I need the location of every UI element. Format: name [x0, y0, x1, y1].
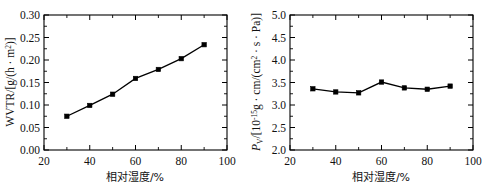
x-tick-label: 20 — [284, 155, 296, 167]
data-point — [65, 114, 69, 118]
y-tick-label: 3.0 — [272, 99, 287, 111]
data-point — [156, 67, 160, 71]
x-tick-label: 100 — [218, 155, 236, 167]
x-tick-label: 20 — [38, 155, 50, 167]
y-axis-title: PV/[10-15g · cm/(cm2 · s · Pa)] — [250, 13, 265, 152]
y-tick-label: 0.30 — [20, 9, 40, 21]
x-tick-label: 80 — [176, 155, 188, 167]
y-tick-label: 0.00 — [20, 144, 40, 156]
data-point — [202, 43, 206, 47]
wvtr-panel: 0.000.050.100.150.200.250.30 20406080100… — [0, 0, 247, 195]
y-tick-label: 0.10 — [20, 99, 40, 111]
data-point — [311, 87, 315, 91]
plot-frame — [44, 15, 227, 150]
data-point — [88, 103, 92, 107]
data-point — [334, 90, 338, 94]
y-tick-label: 3.5 — [272, 77, 287, 89]
x-axis-title: 相对湿度/% — [106, 170, 164, 184]
data-point — [110, 92, 114, 96]
pv-chart-svg: 2.02.53.03.54.04.55.0 20406080100 PV/[10… — [247, 0, 495, 195]
x-tick-label: 40 — [84, 155, 96, 167]
y-tick-label: 4.0 — [272, 54, 287, 66]
y-tick-label: 0.20 — [20, 54, 40, 66]
x-tick-label: 60 — [376, 155, 388, 167]
y-tick-label: 5.0 — [272, 9, 287, 21]
x-tick-label: 40 — [330, 155, 342, 167]
y-tick-label: 0.25 — [20, 32, 40, 44]
x-tick-label: 80 — [422, 155, 434, 167]
y-tick-label: 0.15 — [20, 77, 40, 89]
x-tick-label: 100 — [464, 155, 482, 167]
data-point — [356, 91, 360, 95]
data-point — [448, 84, 452, 88]
y-tick-label: 2.5 — [272, 122, 287, 134]
wvtr-chart-svg: 0.000.050.100.150.200.250.30 20406080100… — [0, 0, 247, 195]
figure-container: 0.000.050.100.150.200.250.30 20406080100… — [0, 0, 495, 195]
data-point — [379, 80, 383, 84]
y-tick-label: 0.05 — [20, 122, 40, 134]
pv-panel: 2.02.53.03.54.04.55.0 20406080100 PV/[10… — [247, 0, 494, 195]
x-tick-label: 60 — [130, 155, 142, 167]
y-axis-title: WVTR/[g/(h · m2)] — [4, 37, 18, 126]
x-axis-title: 相对湿度/% — [352, 170, 410, 184]
data-point — [402, 86, 406, 90]
y-tick-label: 4.5 — [272, 32, 287, 44]
data-point — [179, 56, 183, 60]
data-point — [425, 87, 429, 91]
data-point — [133, 76, 137, 80]
